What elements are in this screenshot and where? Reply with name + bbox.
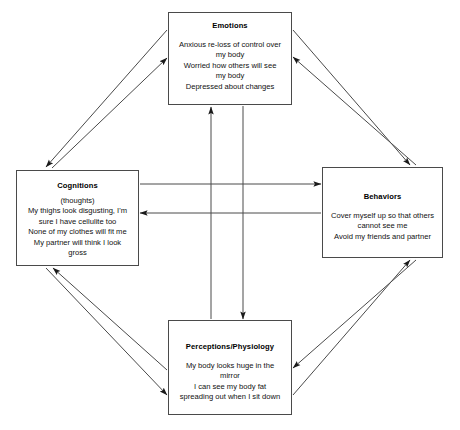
node-emotions-body: Anxious re-loss of control over my body … <box>173 40 287 92</box>
arrow-perceptions-to-behaviors <box>293 260 410 395</box>
node-cognitions[interactable]: Cognitions (thoughts) My thighs look dis… <box>16 170 139 266</box>
node-behaviors-title: Behaviors <box>327 192 438 202</box>
arrow-emotions-to-cognitions <box>46 30 167 167</box>
cbt-cycle-diagram: Emotions Anxious re-loss of control over… <box>0 0 460 430</box>
node-cognitions-body: (thoughts) My thighs look disgusting, I'… <box>21 196 134 258</box>
node-behaviors[interactable]: Behaviors Cover myself up so that others… <box>322 167 443 258</box>
node-emotions-line-3: Worried how others will see <box>173 61 287 71</box>
node-emotions[interactable]: Emotions Anxious re-loss of control over… <box>168 12 292 105</box>
node-behaviors-line-3: Avoid my friends and partner <box>327 232 438 242</box>
node-cognitions-line-1: (thoughts) <box>21 196 134 206</box>
node-cognitions-line-3: sure I have cellulite too <box>21 217 134 227</box>
node-perceptions-line-3: I can see my body fat <box>173 382 287 392</box>
node-emotions-line-2: my body <box>173 50 287 60</box>
node-perceptions-title: Perceptions/Physiology <box>173 342 287 352</box>
arrow-behaviors-to-perceptions <box>293 260 416 368</box>
node-cognitions-line-5: My partner will think I look <box>21 238 134 248</box>
arrow-cognitions-to-emotions <box>52 58 167 168</box>
arrow-behaviors-to-emotions <box>293 57 416 165</box>
node-cognitions-line-4: None of my clothes will fit me <box>21 227 134 237</box>
node-perceptions-line-4: spreading out when I sit down <box>173 392 287 402</box>
node-perceptions-line-2: mirror <box>173 371 287 381</box>
node-behaviors-line-2: cannot see me <box>327 221 438 231</box>
arrow-cognitions-to-perceptions <box>46 268 167 395</box>
node-cognitions-line-6: gross <box>21 248 134 258</box>
node-perceptions-body: My body looks huge in the mirror I can s… <box>173 361 287 403</box>
node-emotions-title: Emotions <box>173 21 287 31</box>
node-emotions-line-5: Depressed about changes <box>173 82 287 92</box>
node-behaviors-body: Cover myself up so that others cannot se… <box>327 211 438 242</box>
node-cognitions-line-2: My thighs look disgusting, I'm <box>21 206 134 216</box>
node-perceptions[interactable]: Perceptions/Physiology My body looks hug… <box>168 320 292 415</box>
node-behaviors-line-1: Cover myself up so that others <box>327 211 438 221</box>
node-emotions-line-1: Anxious re-loss of control over <box>173 40 287 50</box>
node-perceptions-line-1: My body looks huge in the <box>173 361 287 371</box>
arrow-perceptions-to-cognitions <box>53 268 167 370</box>
node-emotions-line-4: my body <box>173 71 287 81</box>
node-cognitions-title: Cognitions <box>21 181 134 191</box>
